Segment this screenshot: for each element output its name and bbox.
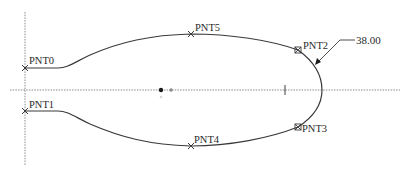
pnt4-label: PNT4: [194, 134, 220, 145]
sketch-canvas[interactable]: PNT0 PNT1 PNT5 PNT4 PNT2 PNT3 38.00: [0, 0, 409, 170]
dimension-value[interactable]: 38.00: [356, 34, 381, 46]
upper-spline[interactable]: [25, 34, 298, 68]
pnt0-label: PNT0: [29, 55, 54, 66]
origin-point-icon[interactable]: [159, 88, 163, 92]
lower-spline[interactable]: [25, 111, 298, 146]
reference-point-icon[interactable]: [169, 88, 173, 92]
pnt1-label: PNT1: [29, 99, 54, 110]
pnt2-label: PNT2: [303, 40, 328, 51]
pnt3-marker-icon[interactable]: [295, 124, 301, 130]
pnt5-label: PNT5: [195, 22, 220, 33]
pnt2-marker-icon[interactable]: [295, 47, 301, 53]
dimension-arrow-icon: [315, 58, 321, 65]
pnt3-label: PNT3: [302, 123, 327, 134]
reference-point-shadow-icon: [160, 96, 163, 99]
